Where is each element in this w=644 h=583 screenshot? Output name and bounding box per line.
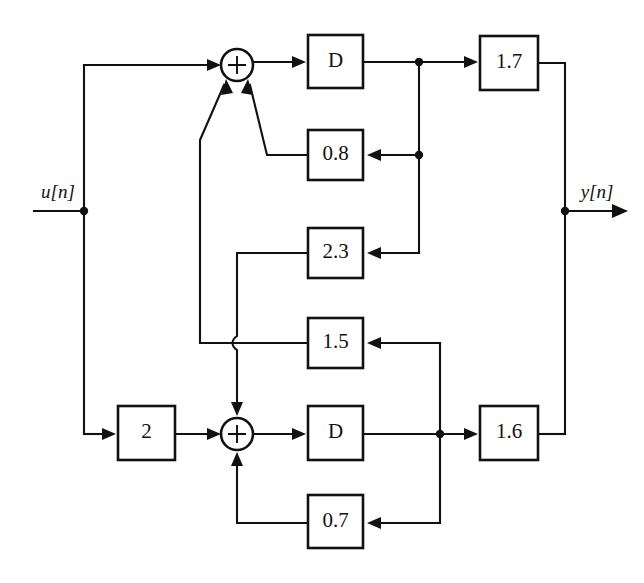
block-gain-1p5[interactable]: 1.5 xyxy=(308,318,363,368)
wire-gain07-to-bottom-adder xyxy=(237,458,308,523)
io-label-layer: u[n] y[n] xyxy=(41,181,613,202)
arrowhead-to-gain08 xyxy=(367,149,381,161)
input-signal-label: u[n] xyxy=(41,181,75,202)
adder-bottom[interactable] xyxy=(221,418,253,450)
arrowhead-to-gain16 xyxy=(464,428,478,440)
wire-gain08-to-top-adder xyxy=(250,85,308,155)
block-gain-2[interactable]: 2 xyxy=(118,406,175,460)
junction-dot-gain08-tap xyxy=(415,151,423,159)
block-delay-bottom[interactable]: D xyxy=(308,406,363,460)
block-diagram-canvas: D 0.8 2.3 1.5 1.7 2 xyxy=(0,0,644,583)
arrowhead-input-top-adder xyxy=(207,59,221,71)
junction-dot-delay-top xyxy=(415,58,423,66)
block-gain-1p7[interactable]: 1.7 xyxy=(480,36,538,90)
block-layer: D 0.8 2.3 1.5 1.7 2 xyxy=(118,35,538,548)
block-gain-0p7-label: 0.7 xyxy=(322,508,348,532)
arrowhead-to-gain07 xyxy=(367,517,381,529)
wire-gain15-to-top-adder xyxy=(200,85,308,343)
wire-gain23-to-bottom-adder xyxy=(233,253,309,410)
block-gain-1p7-label: 1.7 xyxy=(496,49,522,73)
block-gain-2p3[interactable]: 2.3 xyxy=(308,228,363,278)
arrowhead-to-gain2 xyxy=(102,428,116,440)
junction-dot-output xyxy=(561,207,569,215)
wire-gain17-out xyxy=(538,63,565,211)
adder-top[interactable] xyxy=(221,49,253,81)
arrowhead-to-gain23 xyxy=(367,247,381,259)
block-delay-top[interactable]: D xyxy=(308,35,363,88)
block-gain-0p7[interactable]: 0.7 xyxy=(308,495,363,548)
block-delay-bottom-label: D xyxy=(328,419,343,443)
output-signal-label: y[n] xyxy=(579,181,614,202)
block-gain-2p3-label: 2.3 xyxy=(322,239,348,263)
arrowhead-bottom-adder-delay xyxy=(292,428,306,440)
junction-dot-delay-bottom xyxy=(436,430,444,438)
arrowhead-top-adder-delay xyxy=(292,56,306,68)
block-delay-top-label: D xyxy=(328,48,343,72)
arrowhead-to-gain17 xyxy=(464,56,478,68)
block-diagram-svg: D 0.8 2.3 1.5 1.7 2 xyxy=(0,0,644,583)
block-gain-1p5-label: 1.5 xyxy=(322,329,348,353)
arrowhead-gain23-bottom-adder xyxy=(231,402,243,416)
arrowhead-gain07-bottom-adder xyxy=(231,452,243,466)
block-gain-1p6-label: 1.6 xyxy=(496,419,522,443)
junction-dot-input xyxy=(80,207,88,215)
arrowhead-to-gain15 xyxy=(367,337,381,349)
block-gain-1p6[interactable]: 1.6 xyxy=(480,406,538,460)
block-gain-0p8-label: 0.8 xyxy=(322,141,348,165)
block-gain-0p8[interactable]: 0.8 xyxy=(308,130,363,180)
block-gain-2-label: 2 xyxy=(141,419,152,443)
arrowhead-layer xyxy=(102,56,628,529)
arrowhead-output xyxy=(612,204,628,218)
arrowhead-gain2-bottom-adder xyxy=(207,428,221,440)
